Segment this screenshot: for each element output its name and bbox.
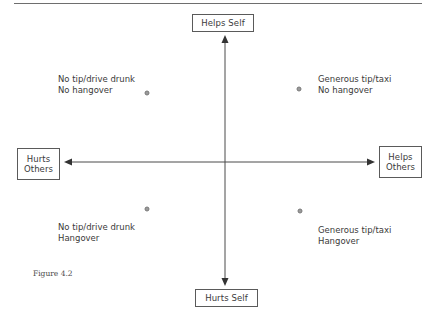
data-point-bottom-left	[145, 207, 150, 212]
quadrant-label-line: No tip/drive drunk	[58, 74, 135, 85]
data-point-top-left	[145, 91, 150, 96]
figure-caption: Figure 4.2	[33, 269, 73, 278]
arrow-left-icon	[64, 159, 72, 166]
axis-label-line: Others	[24, 164, 53, 174]
quadrant-label-top-right: Generous tip/taxi No hangover	[318, 74, 391, 96]
axis-label-text: Helps Self	[201, 18, 245, 28]
axis-label-text: Hurts Self	[205, 293, 248, 303]
quadrant-label-line: Hangover	[318, 236, 391, 247]
quadrant-label-line: Hangover	[58, 233, 135, 244]
axis-label-line: Hurts	[27, 154, 51, 164]
axis-label-helps-others: Helps Others	[379, 146, 422, 178]
quadrant-label-top-left: No tip/drive drunk No hangover	[58, 74, 135, 96]
arrow-right-icon	[367, 159, 375, 166]
quadrant-label-bottom-left: No tip/drive drunk Hangover	[58, 222, 135, 244]
quadrant-label-line: No hangover	[58, 85, 135, 96]
axis-label-hurts-others: Hurts Others	[17, 148, 60, 180]
axis-label-hurts-self: Hurts Self	[195, 289, 258, 307]
axis-label-helps-self: Helps Self	[192, 14, 254, 32]
arrow-up-icon	[222, 35, 229, 43]
data-point-bottom-right	[298, 209, 303, 214]
arrow-down-icon	[222, 278, 229, 286]
quadrant-label-line: No hangover	[318, 85, 391, 96]
quadrant-label-line: Generous tip/taxi	[318, 225, 391, 236]
axis-label-line: Helps	[388, 152, 412, 162]
quadrant-label-line: No tip/drive drunk	[58, 222, 135, 233]
axis-label-line: Others	[386, 162, 415, 172]
quadrant-label-line: Generous tip/taxi	[318, 74, 391, 85]
quadrant-label-bottom-right: Generous tip/taxi Hangover	[318, 225, 391, 247]
data-point-top-right	[297, 87, 302, 92]
